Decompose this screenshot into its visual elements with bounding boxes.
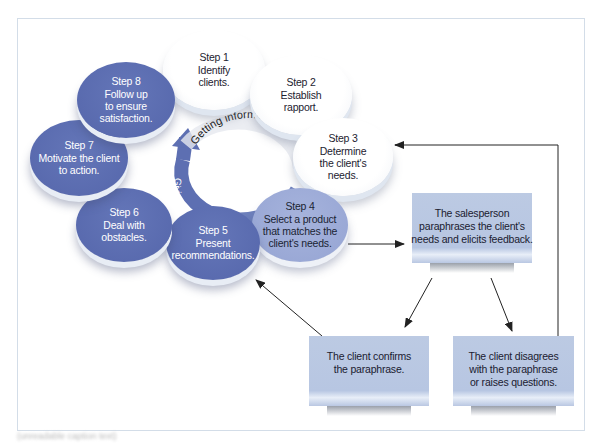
- step-6-title: Step 6: [109, 206, 138, 218]
- box-shadow: [471, 406, 556, 416]
- box-shadow: [430, 263, 514, 273]
- step-7-title: Step 7: [64, 139, 93, 151]
- paraphrase-line: paraphrases the client's: [419, 220, 525, 233]
- disagrees-line: or raises questions.: [470, 376, 557, 389]
- step-4-line: client's needs.: [268, 237, 331, 249]
- paraphrase-line: needs and elicits feedback.: [411, 233, 532, 246]
- step-8-title: Step 8: [111, 75, 140, 87]
- figure-caption: (unreadable caption text): [17, 432, 277, 441]
- step-4-line: that matches the: [263, 225, 337, 237]
- arrow-confirms-to-step5: [256, 280, 322, 336]
- step-7-line: to action.: [59, 164, 100, 176]
- step-2-title: Step 2: [286, 76, 315, 88]
- step-4-line: Select a product: [264, 213, 337, 225]
- confirms-box: The client confirms the paraphrase.: [309, 336, 429, 406]
- confirms-line: the paraphrase.: [334, 363, 405, 376]
- step-6-line: obstacles.: [101, 231, 146, 243]
- step-5-title: Step 5: [198, 224, 227, 236]
- step-5-line: recommendations.: [171, 249, 254, 261]
- step-2-line: rapport.: [284, 101, 319, 113]
- disagrees-line: with the paraphrase: [469, 363, 557, 376]
- arrow-paraphrase-to-confirms: [405, 278, 432, 327]
- confirms-line: The client confirms: [327, 350, 411, 363]
- step-2-line: Establish: [281, 89, 322, 101]
- step-3-pill: Step 3 Determine the client's needs.: [293, 118, 393, 196]
- step-8-pill: Step 8 Follow up to ensure satisfaction.: [77, 62, 175, 138]
- arrow-paraphrase-to-disagrees: [491, 278, 512, 331]
- step-5-line: Present: [196, 237, 231, 249]
- paraphrase-box: The salesperson paraphrases the client's…: [412, 193, 532, 263]
- step-3-line: Determine: [320, 145, 367, 157]
- step-3-title: Step 3: [328, 132, 357, 144]
- disagrees-line: The client disagrees: [469, 350, 559, 363]
- step-8-line: Follow up: [104, 88, 147, 100]
- step-7-line: Motivate the client: [39, 152, 120, 164]
- step-8-line: to ensure: [105, 100, 147, 112]
- step-1-line: Identify: [198, 64, 230, 76]
- step-6-line: Deal with: [103, 219, 144, 231]
- step-1-line: clients.: [198, 76, 229, 88]
- step-4-title: Step 4: [285, 200, 314, 212]
- step-3-line: needs.: [328, 169, 358, 181]
- step-6-pill: Step 6 Deal with obstacles.: [76, 188, 172, 262]
- step-1-title: Step 1: [199, 51, 228, 63]
- step-8-line: satisfaction.: [100, 112, 153, 124]
- step-5-pill: Step 5 Present recommendations.: [166, 206, 260, 280]
- step-3-line: the client's: [320, 157, 367, 169]
- step-4-pill: Step 4 Select a product that matches the…: [252, 188, 348, 262]
- disagrees-box: The client disagrees with the paraphrase…: [453, 336, 574, 406]
- paraphrase-line: The salesperson: [435, 207, 510, 220]
- box-shadow: [327, 406, 411, 416]
